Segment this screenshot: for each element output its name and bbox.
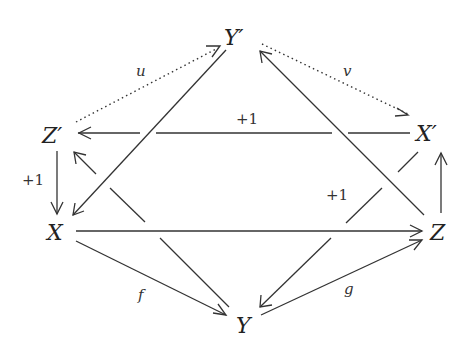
edge-z-to-xprime bbox=[435, 153, 447, 213]
edge-u bbox=[76, 46, 220, 122]
node-z: Z bbox=[429, 220, 446, 245]
edge-x-to-z bbox=[76, 225, 422, 237]
edge-zprime-to-x bbox=[51, 151, 63, 214]
octahedral-diagram: Y′ Z′ X′ X Z Y u v +1 +1 bbox=[0, 0, 474, 353]
edge-xprime-to-y bbox=[260, 152, 418, 307]
edge-f bbox=[76, 241, 226, 315]
edge-g bbox=[261, 240, 422, 315]
label-shift-left: +1 bbox=[22, 171, 44, 189]
edge-v bbox=[262, 44, 408, 116]
node-x: X bbox=[45, 220, 64, 245]
node-y-prime: Y′ bbox=[224, 25, 244, 50]
label-f: f bbox=[137, 286, 146, 304]
edge-xprime-to-zprime bbox=[78, 127, 410, 139]
node-y: Y bbox=[236, 313, 253, 338]
label-shift-top: +1 bbox=[236, 110, 258, 128]
label-g: g bbox=[344, 280, 354, 298]
label-v: v bbox=[343, 62, 352, 80]
label-shift-right: +1 bbox=[326, 186, 348, 204]
label-u: u bbox=[136, 62, 146, 80]
node-z-prime: Z′ bbox=[41, 123, 62, 148]
node-x-prime: X′ bbox=[414, 121, 437, 146]
edge-y-to-zprime bbox=[74, 152, 229, 307]
